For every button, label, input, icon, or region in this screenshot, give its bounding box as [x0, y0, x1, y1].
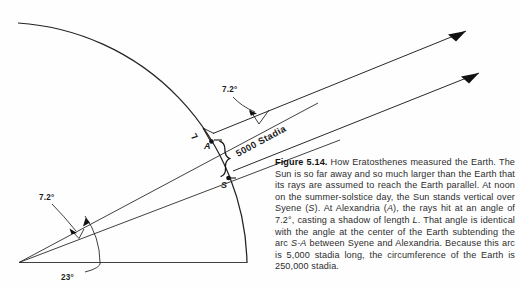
sun-ray-upper-line [213, 31, 466, 134]
sun-ray-lower-arrowhead [461, 73, 479, 84]
angle-tilt-label: 23° [61, 273, 74, 282]
point-alexandria-label: A [203, 141, 211, 151]
sun-ray-upper-arrowhead [448, 31, 466, 42]
leader-sun-angle [233, 97, 255, 112]
angle-sun-label: 7.2° [222, 85, 237, 94]
shadow-length-label: L [188, 131, 199, 141]
figure-caption: Figure 5.14. How Eratosthenes measured t… [275, 157, 515, 273]
leader-tilt-angle [85, 262, 101, 272]
stadia-distance-label: 5000 Stadia [234, 123, 288, 159]
caption-text-2: ). At Alexandria ( [315, 203, 387, 213]
figure-page: 7.2° 7.2° 23° A S L 5000 Stadia Figure 5… [0, 0, 519, 289]
caption-text-5: between Syene and Alexandria. Because th… [275, 238, 515, 271]
angle-center-label: 7.2° [39, 193, 54, 202]
radius-alexandria-line [19, 103, 318, 263]
point-syene-label: S [221, 180, 227, 190]
leader-center-angle-arrowhead [70, 229, 78, 235]
figure-number: Figure 5.14. [275, 157, 327, 167]
leader-center-angle [52, 204, 76, 231]
caption-italic-arc: S-A [291, 238, 307, 248]
